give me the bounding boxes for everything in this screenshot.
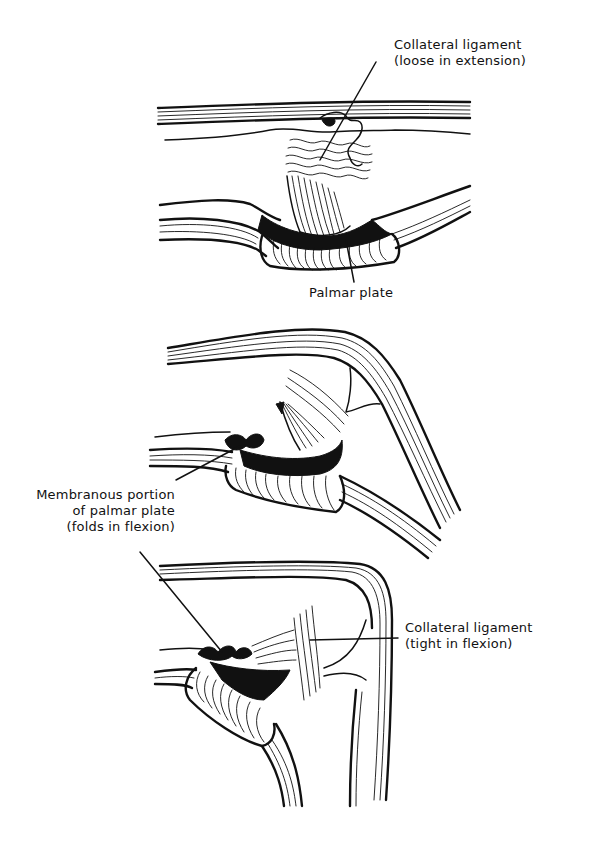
partial-flexion-panel — [150, 329, 460, 558]
label-line: of palmar plate — [30, 503, 175, 519]
label-line: Collateral ligament — [394, 37, 526, 53]
label-line: Membranous portion — [30, 487, 175, 503]
label-membranous-portion: Membranous portion of palmar plate (fold… — [30, 487, 175, 535]
label-line: Palmar plate — [309, 285, 393, 301]
label-line: Collateral ligament — [405, 620, 533, 636]
label-line: (loose in extension) — [394, 53, 526, 69]
label-line: (tight in flexion) — [405, 636, 533, 652]
label-palmar-plate: Palmar plate — [309, 285, 393, 301]
joint-diagram: Collateral ligament (loose in extension)… — [0, 0, 589, 847]
extension-panel — [158, 62, 470, 282]
label-collateral-ligament-extension: Collateral ligament (loose in extension) — [394, 37, 526, 69]
label-line: (folds in flexion) — [30, 519, 175, 535]
diagram-illustration — [0, 0, 589, 847]
label-collateral-ligament-flexion: Collateral ligament (tight in flexion) — [405, 620, 533, 652]
full-flexion-panel — [140, 552, 398, 806]
